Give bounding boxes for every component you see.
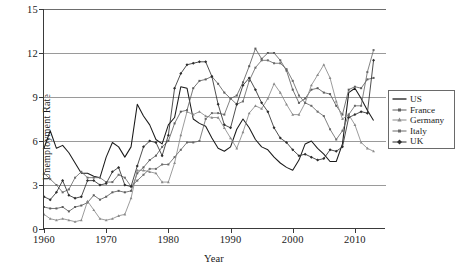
legend-label: UK [410,136,423,147]
legend-item-germany[interactable]: Germany [392,115,454,126]
x-tick-label: 2000 [282,234,304,245]
y-tick-label: 15 [27,4,38,15]
y-tick-label: 3 [33,180,38,191]
y-tick-label: 9 [33,92,38,103]
x-axis-title: Year [204,253,224,264]
legend-swatch-icon [392,105,407,115]
legend-label: France [410,105,435,116]
y-tick-label: 6 [33,136,38,147]
legend-item-france[interactable]: France [392,105,454,116]
legend-item-us[interactable]: US [392,94,454,105]
legend-label: Germany [410,115,444,126]
legend: USFranceGermanyItalyUK [388,90,455,149]
x-tick-label: 1970 [95,234,117,245]
legend-swatch-icon [392,115,407,125]
legend-swatch-icon [392,94,407,104]
y-tick-label: 12 [27,48,38,59]
x-tick-label: 2010 [344,234,366,245]
legend-label: Italy [410,126,427,137]
legend-swatch-icon [392,126,407,136]
series-us [44,87,374,178]
chart-figure: Unemployment Rate 03691215 1960197019801… [0,0,462,273]
series-uk [44,59,375,201]
x-tick-label: 1960 [33,234,55,245]
x-tick-label: 1990 [220,234,242,245]
legend-item-uk[interactable]: UK [392,136,454,147]
x-tick-label: 1980 [157,234,179,245]
legend-item-italy[interactable]: Italy [392,126,454,137]
plot-area: 03691215 196019701980199020002010 [43,9,385,229]
series-lines [44,9,386,229]
legend-swatch-icon [392,137,407,147]
series-france [44,48,375,213]
legend-label: US [410,94,422,105]
y-tick-label: 0 [33,224,38,235]
series-germany [44,63,375,223]
